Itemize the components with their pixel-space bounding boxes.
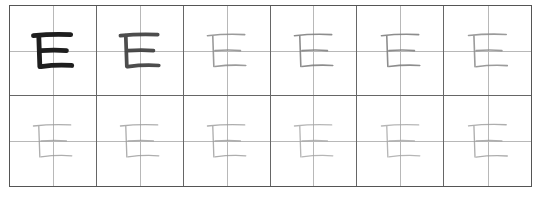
ju-character-icon <box>374 113 427 169</box>
character-glyph <box>184 96 270 186</box>
character-glyph <box>97 6 183 95</box>
character-glyph <box>97 96 183 186</box>
ju-character-icon <box>374 23 427 78</box>
practice-cell <box>271 96 358 186</box>
character-glyph <box>444 6 531 95</box>
practice-cell <box>10 6 97 96</box>
ju-character-icon <box>26 113 79 169</box>
practice-cell <box>444 6 531 96</box>
character-glyph <box>357 6 443 95</box>
character-glyph <box>271 96 357 186</box>
character-glyph <box>357 96 443 186</box>
ju-character-icon <box>287 113 340 169</box>
practice-cell <box>184 96 271 186</box>
practice-cell <box>97 6 184 96</box>
character-glyph <box>444 96 531 186</box>
character-glyph <box>184 6 270 95</box>
ju-character-icon <box>200 23 253 78</box>
practice-cell <box>10 96 97 186</box>
character-glyph <box>10 96 96 186</box>
practice-cell <box>184 6 271 96</box>
ju-character-icon <box>113 23 166 78</box>
practice-cell <box>357 96 444 186</box>
ju-character-icon <box>200 113 253 169</box>
practice-cell <box>271 6 358 96</box>
practice-cell <box>357 6 444 96</box>
ju-character-icon <box>287 23 340 78</box>
practice-cell <box>97 96 184 186</box>
ju-character-icon <box>26 23 79 78</box>
ju-character-icon <box>113 113 166 169</box>
character-glyph <box>10 6 96 95</box>
character-glyph <box>271 6 357 95</box>
practice-cell <box>444 96 531 186</box>
ju-character-icon <box>461 113 515 169</box>
ju-character-icon <box>461 23 515 78</box>
practice-grid <box>9 5 532 187</box>
